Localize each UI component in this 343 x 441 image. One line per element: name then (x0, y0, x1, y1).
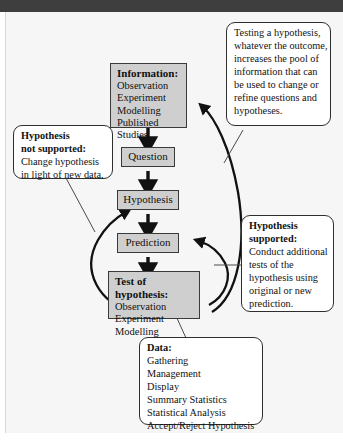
callout-line: hypotheses. (234, 105, 324, 118)
callout-line: tests of the (249, 259, 327, 272)
question-label: Question (128, 150, 168, 162)
prediction-label: Prediction (125, 236, 170, 248)
callout-header-line: Hypothesis (249, 220, 327, 233)
callout-line: in light of new data. (21, 169, 106, 182)
callout-line: be used to change or (234, 79, 324, 92)
callout-line: hypothesis using (249, 272, 327, 285)
information-item: Experiment (117, 92, 181, 104)
information-item: Observation (117, 80, 181, 92)
hypothesis-label: Hypothesis (123, 193, 173, 205)
process-box-hypothesis[interactable]: Hypothesis (117, 190, 179, 210)
callout-line: Summary Statistics (147, 394, 256, 407)
information-header: Information: (117, 67, 181, 80)
callout-hypothesis-supported[interactable]: Hypothesis supported: Conduct additional… (241, 215, 334, 312)
callout-line: increases the pool of (234, 53, 324, 66)
process-box-test-of-hypothesis[interactable]: Test of hypothesis: Observation Experime… (108, 271, 200, 319)
diagram-page: Information: Observation Experiment Mode… (0, 0, 343, 441)
process-box-information[interactable]: Information: Observation Experiment Mode… (110, 63, 187, 128)
process-box-prediction[interactable]: Prediction (117, 233, 179, 253)
callout-line: Accept/Reject Hypothesis (147, 420, 256, 433)
callout-line: Management (147, 368, 256, 381)
callout-header-line: supported: (249, 233, 327, 246)
callout-line: Conduct additional (249, 246, 327, 259)
information-item: Published Studies (117, 117, 181, 142)
callout-line: refine questions and (234, 92, 324, 105)
callout-line: Display (147, 381, 256, 394)
callout-line: original or new (249, 285, 327, 298)
test-of-hypothesis-header: Test of hypothesis: (115, 275, 194, 301)
callout-data[interactable]: Data: Gathering Management Display Summa… (139, 337, 263, 425)
arrow-test-to-information (203, 107, 241, 312)
test-item: Experiment (115, 313, 194, 325)
process-box-question[interactable]: Question (121, 147, 175, 167)
callout-line: Statistical Analysis (147, 407, 256, 420)
callout-hypothesis-not-supported[interactable]: Hypothesis not supported: Change hypothe… (13, 125, 113, 179)
callout-testing-a-hypothesis[interactable]: Testing a hypothesis, whatever the outco… (226, 22, 331, 126)
callout-header-line: Hypothesis (21, 130, 106, 143)
test-item: Observation (115, 301, 194, 313)
information-item: Modelling (117, 105, 181, 117)
callout-line: Testing a hypothesis, (234, 27, 324, 40)
callout-line: Change hypothesis (21, 156, 106, 169)
callout-line: information that can (234, 66, 324, 79)
callout-line: prediction. (249, 298, 327, 311)
callout-line: whatever the outcome, (234, 40, 324, 53)
callout-header-line: not supported: (21, 143, 106, 156)
callout-line: Gathering (147, 355, 256, 368)
callout-header-line: Data: (147, 342, 256, 355)
arrow-test-to-prediction (199, 241, 228, 305)
